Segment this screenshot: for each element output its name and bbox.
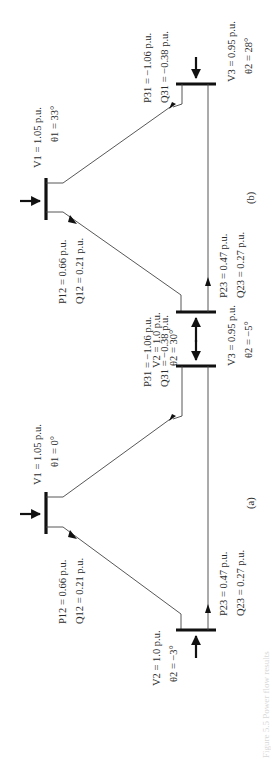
diagram-a: V1 = 1.05 p.u. θ1 = 0° P31 = −1.06 p.u. … xyxy=(20,305,257,686)
flow23-p-label: P23 = 0.47 p.u. xyxy=(218,552,229,616)
flow31-p-label: P31 = −1.06 p.u. xyxy=(142,33,153,103)
flow31-q-label: Q31 = −0.38 p.u. xyxy=(159,315,170,387)
line-1-3 xyxy=(46,105,173,183)
flow31-arrow-icon xyxy=(169,414,176,421)
flow23-p-label: P23 = 0.47 p.u. xyxy=(218,234,229,298)
flow23-arrow-icon xyxy=(205,604,211,613)
diagram-b-label: (b) xyxy=(245,191,257,204)
line-1-3 xyxy=(46,417,173,497)
bus2-voltage-label: V2 = 1.0 p.u. xyxy=(151,630,162,686)
bus3-angle-label: θ2 = −5° xyxy=(243,321,254,358)
flow31-q-label: Q31 = −0.38 p.u. xyxy=(159,31,170,103)
figure-caption: Figure 5.5 Power flow results xyxy=(261,651,271,758)
flow23-arrow-icon xyxy=(205,277,211,286)
flow12-p-label: P12 = 0.66 p.u. xyxy=(57,240,68,304)
flow31-p-label: P31 = −1.06 p.u. xyxy=(142,317,153,387)
flow23-q-label: Q23 = 0.27 p.u. xyxy=(235,232,246,298)
diagram-a-label: (a) xyxy=(245,497,257,509)
bus1-angle-label: θ1 = 33° xyxy=(49,106,60,142)
flow12-p-label: P12 = 0.66 p.u. xyxy=(57,560,68,624)
power-flow-figure: V1 = 1.05 p.u. θ1 = 33° P31 = −1.06 p.u.… xyxy=(0,0,271,760)
flow12-q-label: Q12 = 0.21 p.u. xyxy=(74,558,85,624)
flow31-arrow-icon xyxy=(169,102,176,109)
line-1-3-stub xyxy=(173,98,182,107)
bus1-angle-label: θ1 = 0° xyxy=(49,436,60,467)
diagram-b: V1 = 1.05 p.u. θ1 = 33° P31 = −1.06 p.u.… xyxy=(20,21,257,368)
bus3-voltage-label: V3 = 0.95 p.u. xyxy=(226,21,237,82)
bus3-voltage-label: V3 = 0.95 p.u. xyxy=(226,305,237,366)
bus3-angle-label: θ2 = 28° xyxy=(243,38,254,74)
flow12-q-label: Q12 = 0.21 p.u. xyxy=(74,238,85,304)
flow23-q-label: Q23 = 0.27 p.u. xyxy=(235,550,246,616)
bus1-voltage-label: V1 = 1.05 p.u. xyxy=(32,107,43,168)
line-1-3-stub xyxy=(173,410,182,419)
bus2-angle-label: θ2 = −3° xyxy=(168,645,179,682)
bus1-voltage-label: V1 = 1.05 p.u. xyxy=(32,424,43,485)
